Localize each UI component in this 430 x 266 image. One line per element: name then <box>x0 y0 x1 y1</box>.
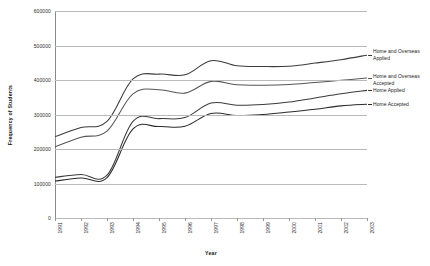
gridline <box>55 11 367 12</box>
x-tick-label: 1991 <box>57 222 63 234</box>
gridline <box>55 184 367 185</box>
x-tick-label: 1997 <box>213 222 219 234</box>
x-tick-mark <box>133 218 134 221</box>
x-tick-label: 2000 <box>291 222 297 234</box>
y-tick-label: 300000 <box>34 112 51 118</box>
gridline <box>55 149 367 150</box>
x-tick-label: 2003 <box>369 222 375 234</box>
series-label-leader <box>368 78 372 79</box>
gridline <box>55 115 367 116</box>
x-tick-mark <box>107 218 108 221</box>
x-tick-label: 2002 <box>343 222 349 234</box>
x-tick-mark <box>185 218 186 221</box>
series-label-leader <box>368 55 372 56</box>
x-tick-label: 1998 <box>239 222 245 234</box>
x-tick-mark <box>237 218 238 221</box>
series-label-home-and-overseas-applied: Home and Overseas Applied <box>373 48 420 61</box>
y-tick-label: 400000 <box>34 77 51 83</box>
x-tick-mark <box>341 218 342 221</box>
x-tick-label: 1992 <box>83 222 89 234</box>
x-tick-label: 1995 <box>161 222 167 234</box>
y-tick-label: 600000 <box>34 8 51 14</box>
x-tick-mark <box>81 218 82 221</box>
x-tick-mark <box>289 218 290 221</box>
x-tick-mark <box>367 218 368 221</box>
series-label-home-applied: Home Applied <box>373 87 405 94</box>
x-tick-label: 1994 <box>135 222 141 234</box>
series-label-home-accepted: Home Accepted <box>373 101 409 108</box>
x-tick-mark <box>211 218 212 221</box>
x-tick-mark <box>159 218 160 221</box>
x-tick-label: 1996 <box>187 222 193 234</box>
line-chart: Frequency of Students 010000020000030000… <box>0 0 430 266</box>
plot-area: 0100000200000300000400000500000600000 <box>55 11 367 218</box>
series-line <box>55 104 367 181</box>
x-tick-label: 1999 <box>265 222 271 234</box>
x-tick-mark <box>263 218 264 221</box>
y-tick-label: 200000 <box>34 146 51 152</box>
series-line <box>55 78 367 147</box>
series-line <box>55 55 367 136</box>
gridline <box>55 46 367 47</box>
y-tick-label: 500000 <box>34 43 51 49</box>
y-tick-label: 100000 <box>34 181 51 187</box>
x-axis-title: Year <box>205 250 217 256</box>
y-axis-title: Frequency of Students <box>7 85 13 145</box>
series-label-home-and-overseas-accepted: Home and Overseas Accepted <box>373 73 420 86</box>
gridline <box>55 80 367 81</box>
x-tick-label: 1993 <box>109 222 115 234</box>
series-label-leader <box>368 104 372 105</box>
series-label-leader <box>368 90 372 91</box>
y-tick-label: 0 <box>48 215 51 221</box>
x-tick-mark <box>315 218 316 221</box>
x-tick-label: 2001 <box>317 222 323 234</box>
x-tick-mark <box>55 218 56 221</box>
